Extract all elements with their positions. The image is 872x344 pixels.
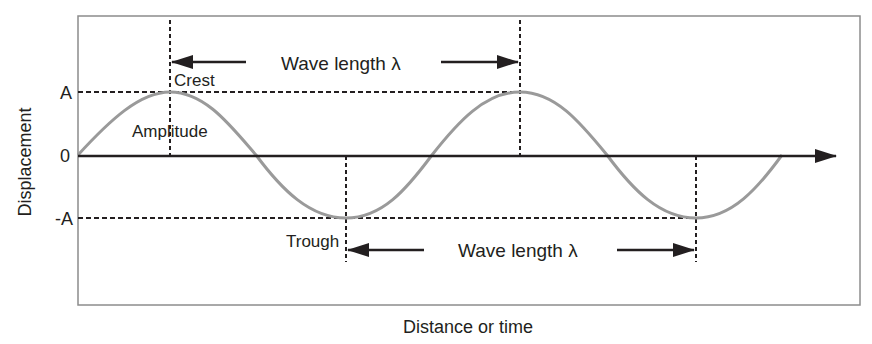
trough-label: Trough [286,232,339,251]
wavelength-bottom-label: Wave length λ [458,240,578,261]
y-axis-label: Displacement [15,107,35,216]
crest-label: Crest [174,71,215,90]
amplitude-label: Amplitude [132,122,208,141]
x-axis-label: Distance or time [403,317,533,337]
y-tick-zero: 0 [60,146,70,166]
y-tick-a: A [60,83,72,103]
wave-diagram: Wave length λ Wave length λ Crest Amplit… [0,0,872,344]
wavelength-top-label: Wave length λ [281,53,401,74]
plot-frame [78,16,860,305]
y-tick-neg-a: -A [55,209,73,229]
